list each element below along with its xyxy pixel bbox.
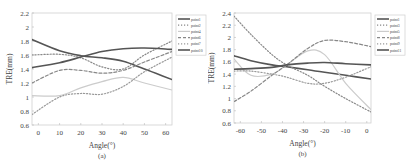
x-axis-label: Angle(°) — [289, 139, 316, 148]
x-tick-label: -10 — [341, 127, 351, 135]
panel-label: (a) — [98, 152, 106, 160]
y-tick-label: 1.8 — [222, 46, 231, 54]
chart-panel-a: 0.60.811.21.41.61.822.20102030405060Angl… — [0, 0, 208, 167]
legend-label: point1 — [390, 18, 400, 22]
plot-area — [32, 13, 172, 125]
y-tick-label: 2.2 — [222, 22, 231, 30]
y-tick-label: 2.2 — [20, 10, 29, 18]
x-tick-label: -40 — [278, 127, 288, 135]
x-tick-label: 30 — [99, 129, 107, 137]
y-axis-label: TRE(mm) — [208, 52, 216, 83]
y-tick-label: 1 — [26, 94, 30, 102]
x-tick-label: 50 — [141, 129, 149, 137]
x-tick-label: 0 — [37, 129, 41, 137]
x-tick-label: -30 — [299, 127, 309, 135]
legend-label: point8 — [390, 36, 400, 40]
x-tick-label: 20 — [77, 129, 85, 137]
legend: point1point3point5point8point9point11 — [375, 15, 405, 55]
legend-label: point3 — [390, 24, 400, 28]
y-tick-label: 1.4 — [222, 71, 231, 79]
y-tick-label: 1.6 — [222, 58, 231, 66]
legend-label: point9 — [390, 42, 400, 46]
legend-label: point11 — [390, 49, 402, 53]
x-tick-label: 40 — [120, 129, 128, 137]
legend-label: point4 — [191, 30, 201, 34]
y-tick-label: 1.6 — [20, 52, 29, 60]
y-tick-label: 2 — [228, 34, 232, 42]
y-tick-label: 1 — [228, 95, 232, 103]
y-tick-label: 0.6 — [222, 120, 231, 128]
x-tick-label: -50 — [257, 127, 267, 135]
y-tick-label: 2 — [26, 24, 30, 32]
y-tick-label: 0.8 — [222, 107, 231, 115]
y-tick-label: 1.2 — [20, 80, 29, 88]
panel-label: (b) — [298, 150, 307, 158]
y-tick-label: 1.2 — [222, 83, 231, 91]
chart-panel-b: 0.60.811.21.41.61.822.22.4-60-50-40-30-2… — [208, 0, 416, 167]
y-axis-label: TRE(mm) — [5, 53, 14, 84]
legend-label: point7 — [191, 42, 201, 46]
legend-label: point10 — [191, 49, 203, 53]
y-tick-label: 1.8 — [20, 38, 29, 46]
y-tick-label: 0.6 — [20, 122, 29, 130]
x-axis-label: Angle(°) — [89, 141, 116, 150]
legend-label: point6 — [191, 36, 201, 40]
x-tick-label: 10 — [56, 129, 64, 137]
y-tick-label: 1.4 — [20, 66, 29, 74]
x-tick-label: -20 — [320, 127, 330, 135]
y-tick-label: 2.4 — [222, 10, 231, 18]
legend-label: point1 — [191, 18, 201, 22]
x-tick-label: 0 — [365, 127, 369, 135]
legend-label: point2 — [191, 24, 201, 28]
line-chart-a: 0.60.811.21.41.61.822.20102030405060Angl… — [0, 0, 208, 167]
legend: point1point2point4point6point7point10 — [176, 15, 206, 55]
y-tick-label: 0.8 — [20, 108, 29, 116]
line-chart-b: 0.60.811.21.41.61.822.22.4-60-50-40-30-2… — [208, 0, 416, 167]
x-tick-label: 60 — [162, 129, 170, 137]
legend-label: point5 — [390, 30, 400, 34]
x-tick-label: -60 — [236, 127, 246, 135]
